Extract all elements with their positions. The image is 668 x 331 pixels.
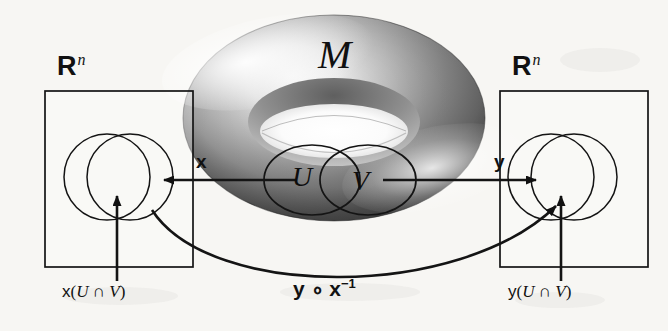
right-caption-set-u: U [522,282,534,301]
left-caption-function: x [62,282,71,301]
transition-map-label: y ∘ x−1 [293,277,356,299]
patch-u-label: U [292,163,312,191]
right-caption-function: y [508,282,517,301]
torus-hole [260,104,408,158]
left-caption-close-paren: ) [120,282,126,301]
left-space-superscript: n [78,51,86,68]
left-caption-intersection: ∩ [88,282,109,301]
left-space-letter: R [57,51,77,81]
left-caption-set-v: V [109,282,119,301]
chart-y-label: y [494,152,505,171]
left-caption: x(U ∩ V) [62,283,125,300]
manifold-label: M [318,35,351,75]
chart-x-label: x [196,152,207,171]
manifold-chart-diagram: Rn Rn M U V x y x(U ∩ V) y(U ∩ V) y ∘ x−… [0,0,668,331]
right-space-superscript: n [533,51,541,68]
right-caption-close-paren: ) [566,282,572,301]
left-caption-set-u: U [76,282,88,301]
left-space-label: Rn [57,52,86,80]
right-space-letter: R [512,51,532,81]
transition-map-expression: y ∘ x [293,277,341,300]
patch-v-label: V [352,167,369,195]
right-caption-set-v: V [555,282,565,301]
right-caption: y(U ∩ V) [508,283,571,300]
transition-map-exponent: −1 [341,276,356,291]
right-space-label: Rn [512,52,541,80]
right-caption-intersection: ∩ [534,282,555,301]
